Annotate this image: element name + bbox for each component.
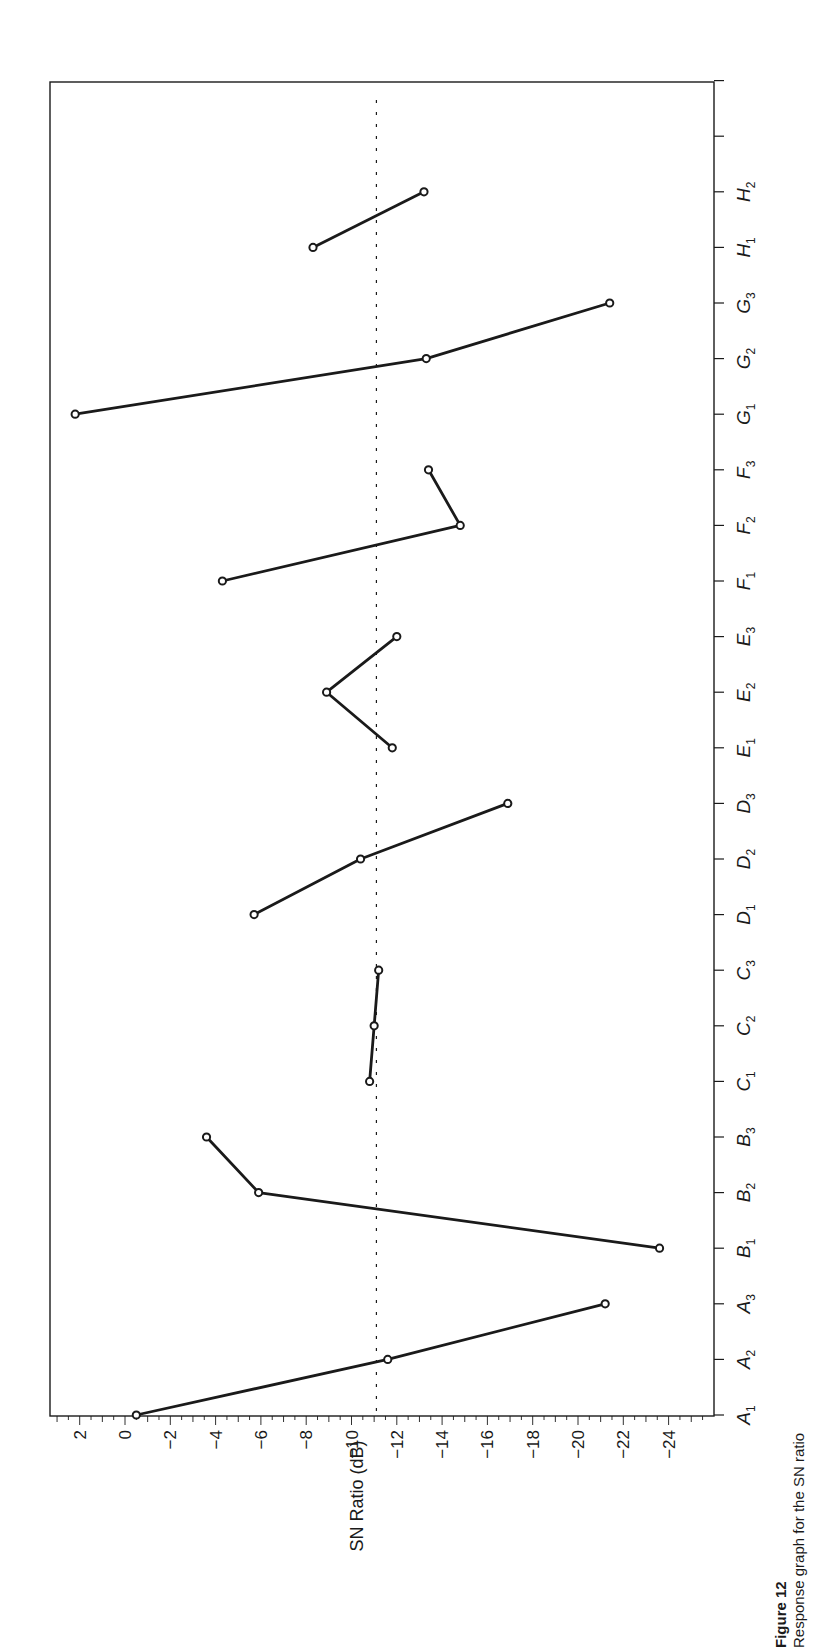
figure-caption: Figure 12 Response graph for the SN rati… xyxy=(772,1433,808,1648)
data-point-marker xyxy=(457,522,464,529)
value-tick-label: −20 xyxy=(569,1430,588,1459)
value-tick-label: −12 xyxy=(388,1430,407,1459)
series-line xyxy=(75,303,610,414)
series-lines xyxy=(72,188,664,1418)
category-label: A2 xyxy=(733,1349,758,1370)
category-label: E3 xyxy=(733,627,758,647)
value-tick-label: −14 xyxy=(433,1430,452,1459)
value-tick-label: 0 xyxy=(116,1430,135,1439)
data-point-marker xyxy=(393,633,400,640)
data-point-marker xyxy=(323,689,330,696)
data-point-marker xyxy=(366,1078,373,1085)
data-point-marker xyxy=(133,1411,140,1418)
value-axis-minor-ticks xyxy=(57,1416,703,1425)
category-label: D2 xyxy=(733,848,758,869)
series-e xyxy=(323,633,400,751)
data-point-marker xyxy=(357,855,364,862)
category-label: B3 xyxy=(733,1127,758,1147)
data-point-marker xyxy=(309,244,316,251)
category-label: C2 xyxy=(733,1015,758,1036)
category-label: D3 xyxy=(733,793,758,814)
data-point-marker xyxy=(203,1133,210,1140)
series-f xyxy=(219,466,464,584)
data-point-marker xyxy=(420,188,427,195)
data-point-marker xyxy=(504,800,511,807)
series-b xyxy=(203,1133,663,1251)
category-label: E1 xyxy=(733,738,758,758)
data-point-marker xyxy=(602,1300,609,1307)
category-label: A1 xyxy=(733,1405,758,1426)
category-label: A3 xyxy=(733,1294,758,1315)
plot-border xyxy=(50,82,714,1416)
value-tick-label: −8 xyxy=(297,1430,316,1449)
value-tick-label: 2 xyxy=(71,1430,90,1439)
category-label: D1 xyxy=(733,904,758,925)
value-tick-label: −4 xyxy=(207,1430,226,1449)
series-c xyxy=(366,967,382,1085)
category-axis: A1A2A3B1B2B3C1C2C3D1D2D3E1E2E3F1F2F3G1G2… xyxy=(714,81,758,1426)
data-point-marker xyxy=(606,299,613,306)
value-axis-title: SN Ratio (dB) xyxy=(347,1440,367,1551)
series-g xyxy=(72,299,614,417)
category-label: E2 xyxy=(733,682,758,702)
category-label: G1 xyxy=(733,403,758,425)
category-label: C3 xyxy=(733,960,758,981)
data-point-marker xyxy=(389,744,396,751)
category-label: B2 xyxy=(733,1183,758,1203)
value-tick-label: −24 xyxy=(660,1430,679,1459)
data-point-marker xyxy=(371,1022,378,1029)
series-a xyxy=(133,1300,609,1418)
category-label: H2 xyxy=(733,181,758,202)
data-point-marker xyxy=(423,355,430,362)
series-line xyxy=(254,803,508,914)
data-point-marker xyxy=(72,411,79,418)
data-point-marker xyxy=(384,1356,391,1363)
data-point-marker xyxy=(656,1245,663,1252)
category-label: G2 xyxy=(733,348,758,370)
figure-label: Figure 12 xyxy=(772,1433,790,1648)
category-label: F3 xyxy=(733,460,758,479)
data-point-marker xyxy=(251,911,258,918)
value-axis-label: SN Ratio (dB) xyxy=(347,1440,367,1551)
category-label: H1 xyxy=(733,237,758,258)
value-tick-label: −18 xyxy=(524,1430,543,1459)
data-point-marker xyxy=(375,967,382,974)
figure-description: Response graph for the SN ratio xyxy=(790,1433,808,1648)
series-line xyxy=(313,192,424,248)
category-label: F2 xyxy=(733,516,758,535)
category-label: C1 xyxy=(733,1071,758,1092)
series-line xyxy=(136,1304,605,1415)
series-d xyxy=(251,800,512,918)
value-tick-label: −2 xyxy=(161,1430,180,1449)
series-line xyxy=(207,1137,660,1248)
response-graph: 20−2−4−6−8−10−12−14−16−18−20−22−24 SN Ra… xyxy=(0,0,833,1652)
value-tick-label: −6 xyxy=(252,1430,271,1449)
series-h xyxy=(309,188,427,251)
category-label: G3 xyxy=(733,292,758,314)
series-line xyxy=(327,637,397,748)
data-point-marker xyxy=(255,1189,262,1196)
category-label: B1 xyxy=(733,1238,758,1258)
value-tick-label: −22 xyxy=(614,1430,633,1459)
value-tick-label: −16 xyxy=(478,1430,497,1459)
plot-frame xyxy=(50,82,714,1416)
data-point-marker xyxy=(219,577,226,584)
series-line xyxy=(222,470,460,581)
value-axis: 20−2−4−6−8−10−12−14−16−18−20−22−24 xyxy=(71,1430,679,1459)
category-label: F1 xyxy=(733,572,758,591)
data-point-marker xyxy=(425,466,432,473)
